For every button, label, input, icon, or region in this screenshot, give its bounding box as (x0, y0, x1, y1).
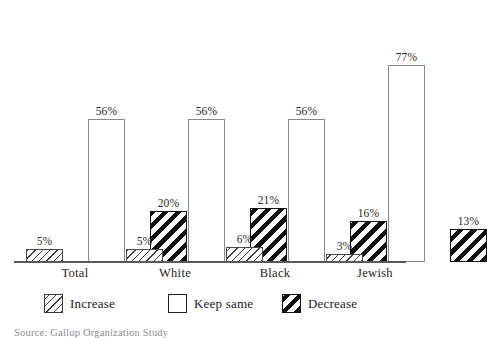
chart-legend: IncreaseKeep sameDecrease (0, 294, 416, 320)
bar-value-label: 56% (96, 106, 118, 118)
empty-square-icon (168, 294, 187, 313)
bar-value-label: 3% (337, 241, 353, 253)
legend-label: Decrease (308, 296, 357, 312)
bar-value-label: 13% (458, 216, 480, 228)
bar-jewish-keep-same[interactable]: 77% (388, 6, 425, 262)
bar-value-label: 5% (137, 236, 153, 248)
legend-item-decrease[interactable]: Decrease (282, 294, 357, 313)
category-label-row: TotalWhiteBlackJewish (14, 266, 406, 286)
hatch-thin-icon (44, 294, 63, 313)
legend-item-keep-same[interactable]: Keep same (168, 294, 253, 313)
bar-value-label: 6% (237, 234, 253, 246)
bar-jewish-decrease[interactable]: 13% (450, 6, 487, 262)
category-label-jewish: Jewish (314, 266, 436, 281)
bar-total-keep-same[interactable]: 56% (88, 6, 125, 262)
bar-rect[interactable] (288, 119, 325, 262)
bar-total-increase[interactable]: 5% (26, 6, 63, 262)
legend-item-increase[interactable]: Increase (44, 294, 115, 313)
plot-area: 5%56%20%5%56%21%6%56%16%3%77%13% (14, 6, 410, 262)
bar-group-jewish: 3%77%13% (326, 6, 487, 262)
bar-black-keep-same[interactable]: 56% (288, 6, 325, 262)
bar-white-keep-same[interactable]: 56% (188, 6, 225, 262)
source-note: Source: Gallup Organization Study (14, 327, 168, 338)
legend-label: Keep same (194, 296, 253, 312)
bar-rect[interactable] (450, 229, 487, 262)
hatch-bold-icon (282, 294, 301, 313)
bar-value-label: 56% (296, 106, 318, 118)
bar-rect[interactable] (88, 119, 125, 262)
bar-value-label: 77% (396, 52, 418, 64)
bar-rect[interactable] (188, 119, 225, 262)
legend-label: Increase (70, 296, 115, 312)
bar-value-label: 56% (196, 106, 218, 118)
bar-black-increase[interactable]: 6% (226, 6, 263, 262)
bar-rect[interactable] (388, 65, 425, 262)
x-axis-line (14, 261, 406, 263)
bar-jewish-increase[interactable]: 3% (326, 6, 363, 262)
bar-rect[interactable] (226, 247, 263, 262)
bar-value-label: 5% (37, 236, 53, 248)
bar-white-increase[interactable]: 5% (126, 6, 163, 262)
